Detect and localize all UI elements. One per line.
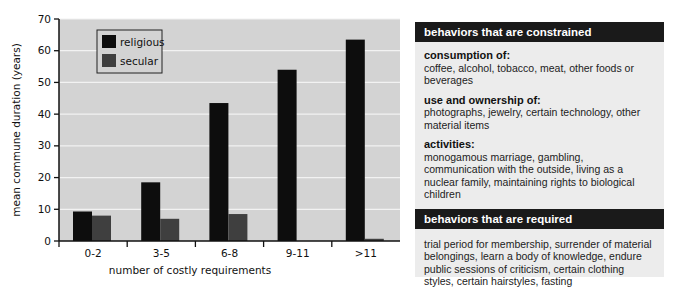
required-header: behaviors that are required [415,209,664,229]
section-text: photographs, jewelry, certain technology… [424,106,655,131]
constrained-section-consumption: consumption of: coffee, alcohol, tobacco… [415,49,664,87]
x-tick-label: 3-5 [153,247,170,259]
bar-religious [141,182,160,241]
section-text: coffee, alcohol, tobacco, meat, other fo… [424,62,655,87]
bar-secular [228,214,247,241]
bar-religious [73,212,92,241]
legend-swatch-religious [102,35,116,48]
constrained-section-ownership: use and ownership of: photographs, jewel… [415,94,664,132]
section-text: monogamous marriage, gambling, communica… [424,151,655,201]
y-tick-label: 40 [38,108,51,120]
y-ticks: 010203040506070 [38,13,59,247]
y-tick-label: 60 [38,44,51,56]
bar-secular [92,216,111,241]
y-tick-label: 70 [38,13,51,25]
x-tick-label: 0-2 [85,247,102,259]
x-tick-label: 6-8 [221,247,238,259]
y-tick-label: 0 [44,235,51,247]
y-tick-label: 50 [38,76,51,88]
bar-secular [160,219,179,241]
y-tick-label: 30 [38,139,51,151]
constrained-header: behaviors that are constrained [415,22,664,42]
y-tick-label: 20 [38,171,51,183]
bar-religious [346,40,365,241]
required-section: trial period for membership, surrender o… [415,238,664,288]
legend-label-religious: religious [120,36,165,48]
x-tick-label: >11 [355,247,377,259]
x-axis-label: number of costly requirements [109,264,271,276]
bar-religious [209,103,228,241]
legend-label-secular: secular [120,55,159,67]
behaviors-panel: behaviors that are constrained consumpti… [415,22,664,277]
y-tick-label: 10 [38,203,51,215]
section-text: trial period for membership, surrender o… [424,238,655,288]
y-axis-label: mean commune duration (years) [10,43,22,217]
x-ticks: 0-23-56-89-11>11 [59,241,377,259]
bar-religious [278,70,297,241]
x-tick-label: 9-11 [286,247,310,259]
section-title: use and ownership of: [424,94,655,107]
legend-swatch-secular [102,54,116,67]
bar-chart: 010203040506070 0-23-56-89-11>11 mean co… [0,0,400,294]
section-title: activities: [424,138,655,151]
legend: religious secular [97,30,165,73]
constrained-section-activities: activities: monogamous marriage, gamblin… [415,138,664,201]
section-title: consumption of: [424,49,655,62]
